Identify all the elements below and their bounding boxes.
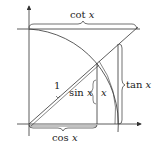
tan-label: tan x	[126, 79, 152, 90]
cos-label: cos x	[52, 132, 78, 143]
cot-label: cot x	[70, 9, 95, 20]
cot-brace	[29, 21, 137, 29]
radius-brace	[56, 96, 60, 98]
unit-circle-diagram: cot x tan x sin x cos x 1 x	[0, 0, 157, 148]
arc-label: x	[101, 87, 107, 98]
unit-circle-arc	[29, 29, 118, 132]
tan-brace	[119, 44, 125, 124]
radius-label: 1	[54, 80, 60, 91]
sin-label: sin x	[69, 87, 93, 98]
